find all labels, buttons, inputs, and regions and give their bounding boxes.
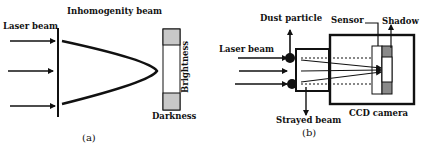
dust-particle-label: Dust particle [260,13,323,23]
illuminated-area [382,57,392,82]
laser-beam-label-a: Laser beam [3,21,58,31]
ccd-camera-label: CCD camera [349,108,408,118]
laser-beam-label-b: Laser beam [219,44,274,54]
beam-profile-curve [62,41,157,104]
focused-ray [301,60,381,68]
inhomogenity-beam-title: Inhomogenity beam [67,6,162,16]
panel-b: Dust particle Sensor Shadow Laser beam [219,13,419,138]
brightness-label: Brightness [180,41,190,93]
panel-a: Inhomogenity beam Laser beam Brightness … [3,6,197,143]
caption-a: (a) [82,132,96,143]
sensor-label: Sensor [331,15,364,25]
dark-region-top [163,29,180,45]
darkness-label: Darkness [152,111,197,121]
dark-region-bottom [163,93,180,110]
diagram-canvas: Inhomogenity beam Laser beam Brightness … [0,0,425,148]
strayed-beam-label: Strayed beam [276,115,341,125]
caption-b: (b) [302,127,316,138]
focused-ray [301,70,381,71]
lens-tube [296,49,329,91]
dust-particle-top [285,53,295,63]
focused-ray [301,72,381,82]
shadow-label: Shadow [382,16,419,26]
